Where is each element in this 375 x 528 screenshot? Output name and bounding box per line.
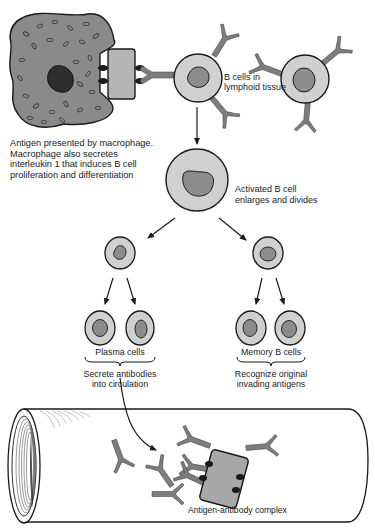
plasma-brace bbox=[85, 357, 155, 366]
plasma-cell-2 bbox=[126, 311, 154, 345]
label-memory-function: Recognize original invading antigens bbox=[218, 369, 324, 390]
memory-brace bbox=[237, 357, 305, 366]
label-macrophage-caption: Antigen presented by macrophage. Macroph… bbox=[10, 138, 153, 180]
label-b-cells-lymphoid: B cells in lymphoid tissue bbox=[224, 72, 286, 92]
arrow-to-memory-precursor bbox=[219, 218, 246, 240]
diagram-artwork bbox=[0, 0, 375, 528]
label-plasma-cells: Plasma cells bbox=[80, 347, 160, 358]
memory-cell-2 bbox=[275, 311, 305, 345]
plasma-precursor-cell bbox=[105, 237, 135, 269]
macrophage bbox=[10, 13, 115, 127]
arrow-to-memory-cell-1 bbox=[256, 278, 262, 304]
arrow-to-plasma-cell-1 bbox=[105, 278, 113, 304]
label-plasma-function: Secrete antibodies into circulation bbox=[68, 369, 172, 390]
plasma-cell-1 bbox=[85, 311, 115, 345]
b-cell-receptor bbox=[140, 66, 176, 84]
activated-b-cell bbox=[166, 149, 228, 211]
arrow-to-plasma-precursor bbox=[148, 218, 175, 238]
label-activated-b-cell: Activated B cell enlarges and divides bbox=[235, 184, 318, 205]
memory-cell-1 bbox=[236, 311, 266, 345]
memory-precursor-cell bbox=[253, 237, 283, 269]
diagram-canvas: B cells in lymphoid tissue Antigen prese… bbox=[0, 0, 375, 528]
presented-antigen bbox=[98, 49, 145, 99]
label-antigen-antibody-complex: Antigen-antibody complex bbox=[188, 505, 287, 516]
arrow-to-memory-cell-2 bbox=[276, 278, 284, 304]
label-memory-b-cells: Memory B cells bbox=[228, 347, 314, 358]
arrow-to-plasma-cell-2 bbox=[127, 278, 135, 304]
